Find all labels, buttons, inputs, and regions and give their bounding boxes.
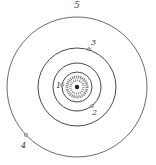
planet-3-label: 3 — [91, 38, 96, 47]
figure-number: 5 — [74, 0, 80, 10]
sun-core — [67, 77, 87, 97]
planet-1-label: 1 — [56, 81, 61, 90]
planet-3: 3 — [88, 38, 97, 51]
planet-4: 4 — [20, 133, 28, 150]
orbit-diagram: 5 1 2 3 4 — [0, 0, 156, 165]
planet-2-label: 2 — [91, 108, 97, 117]
planet-4-label: 4 — [20, 141, 26, 150]
planet-2: 2 — [91, 105, 98, 118]
